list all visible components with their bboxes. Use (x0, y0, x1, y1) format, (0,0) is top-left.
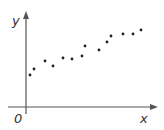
data-point (110, 35, 113, 38)
x-axis-label: x (140, 112, 148, 125)
data-point (98, 49, 101, 52)
data-point (122, 33, 125, 36)
data-point (33, 68, 36, 71)
data-point (106, 41, 109, 44)
data-point (29, 74, 32, 77)
x-axis-arrow-icon (150, 104, 158, 110)
origin-label: 0 (14, 112, 22, 125)
data-point (71, 58, 74, 61)
data-point (84, 45, 87, 48)
data-point (52, 65, 55, 68)
data-point (132, 33, 135, 36)
data-point (44, 60, 47, 63)
data-point (62, 57, 65, 60)
data-point (140, 29, 143, 32)
data-point (81, 55, 84, 58)
data-points (29, 29, 143, 77)
y-axis-arrow-icon (23, 11, 29, 19)
y-axis-label: y (12, 14, 20, 27)
